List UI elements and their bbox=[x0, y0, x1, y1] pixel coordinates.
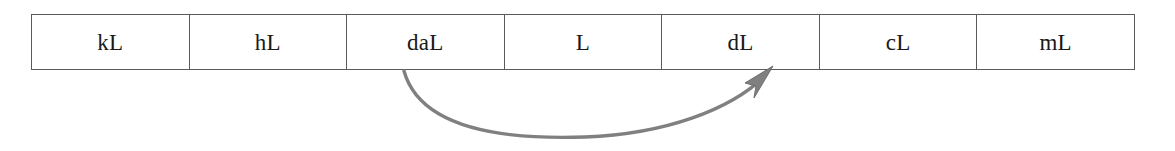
unit-cell-dal[interactable]: daL bbox=[347, 15, 505, 70]
unit-cell-cl[interactable]: cL bbox=[819, 15, 977, 70]
unit-cell-kl[interactable]: kL bbox=[32, 15, 190, 70]
conversion-arrow-arc bbox=[404, 71, 765, 137]
metric-volume-units-row: kL hL daL L dL cL mL bbox=[31, 14, 1135, 70]
unit-cell-l[interactable]: L bbox=[504, 15, 662, 70]
unit-cell-hl[interactable]: hL bbox=[189, 15, 347, 70]
conversion-arrow-head-icon bbox=[745, 66, 773, 98]
diagram-canvas: kL hL daL L dL cL mL bbox=[0, 0, 1175, 151]
table-row: kL hL daL L dL cL mL bbox=[32, 15, 1135, 70]
unit-cell-dl[interactable]: dL bbox=[662, 15, 820, 70]
unit-cell-ml[interactable]: mL bbox=[977, 15, 1135, 70]
